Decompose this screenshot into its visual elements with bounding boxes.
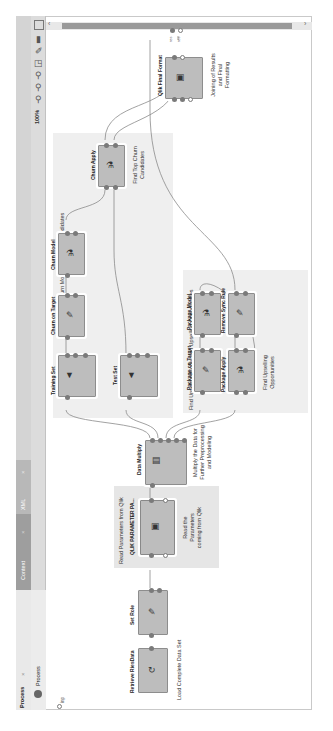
apply-model-icon: ⚗: [236, 365, 244, 375]
output-port[interactable]: [73, 353, 78, 358]
output-port[interactable]: [73, 231, 78, 236]
apply-model-icon: ⚗: [106, 160, 114, 170]
operator-set-role[interactable]: ✎: [138, 590, 168, 635]
input-port[interactable]: [234, 390, 239, 395]
output-port[interactable]: [65, 353, 70, 358]
filter-icon: ▼: [127, 370, 136, 380]
input-port[interactable]: [188, 97, 193, 102]
output-port-label: res: [176, 36, 181, 42]
output-port[interactable]: [113, 143, 118, 148]
input-port[interactable]: [172, 97, 177, 102]
output-port[interactable]: [234, 348, 239, 353]
output-port[interactable]: [150, 438, 155, 443]
operator-note: Multiply the Data for Further Preprocess…: [192, 425, 213, 480]
output-port[interactable]: [157, 588, 162, 593]
operator-label: QLIK PARAMETER PA...: [129, 498, 135, 555]
output-port[interactable]: [180, 55, 185, 60]
set-role-icon: ✎: [148, 607, 156, 617]
qlik-icon: ▣: [151, 521, 160, 531]
operator-qlik-parameter[interactable]: ▣: [140, 500, 175, 555]
output-port[interactable]: [163, 498, 168, 503]
operator-package-apply[interactable]: ⚗: [228, 350, 255, 392]
input-port[interactable]: [234, 333, 239, 338]
set-role-icon: ✎: [236, 308, 244, 318]
output-port-label: res: [168, 36, 173, 42]
operator-training-set[interactable]: ▼: [58, 355, 96, 397]
set-role-icon: ✎: [66, 310, 74, 320]
output-port[interactable]: [243, 348, 248, 353]
output-port[interactable]: [73, 293, 78, 298]
operator-remove-sync[interactable]: ✎: [228, 293, 255, 335]
operator-qlik-final-format[interactable]: ▣: [165, 57, 203, 99]
operator-test-set[interactable]: ▼: [120, 355, 158, 397]
output-port[interactable]: [209, 348, 214, 353]
input-port-label: inp: [60, 697, 65, 703]
input-port[interactable]: [243, 390, 248, 395]
output-port[interactable]: [172, 55, 177, 60]
operator-label: Qlik Final Format: [157, 55, 163, 96]
operator-label: Package Apply: [220, 357, 226, 392]
output-port[interactable]: [158, 438, 163, 443]
process-input-port[interactable]: [57, 704, 62, 709]
operator-label: Set Role: [129, 605, 135, 625]
operator-note: Find Upselling Opportunities: [262, 350, 276, 395]
operator-churn-on-target[interactable]: ✎: [58, 295, 85, 337]
operator-label: Churn Model: [50, 239, 56, 270]
operator-package-model[interactable]: ⚗: [194, 293, 221, 335]
input-port[interactable]: [65, 335, 70, 340]
output-port[interactable]: [127, 353, 132, 358]
operator-label: Training Set: [50, 366, 56, 395]
operator-label: Data Multiply: [136, 444, 142, 475]
output-port[interactable]: [166, 438, 171, 443]
operator-package-on-target[interactable]: ✎: [194, 350, 221, 392]
operator-multiply[interactable]: ▤: [145, 440, 187, 485]
output-port[interactable]: [174, 438, 179, 443]
operator-label: Package Model: [186, 294, 192, 330]
operator-label: Package on Target: [186, 346, 192, 390]
operator-label: Retrieve RiesData: [129, 650, 135, 693]
operator-label: Remove Sync Rule: [220, 288, 226, 333]
operator-churn-model[interactable]: ⚗: [58, 233, 85, 275]
input-port[interactable]: [127, 395, 132, 400]
output-port[interactable]: [149, 588, 154, 593]
output-port[interactable]: [83, 353, 88, 358]
output-port[interactable]: [145, 353, 150, 358]
operator-note: Find Top Churn Candidates: [132, 145, 146, 185]
input-port[interactable]: [113, 185, 118, 190]
output-port[interactable]: [135, 353, 140, 358]
operator-retrieve[interactable]: ↻: [138, 648, 168, 693]
output-port[interactable]: [104, 143, 109, 148]
output-port[interactable]: [234, 291, 239, 296]
output-port[interactable]: [149, 646, 154, 651]
output-port[interactable]: [209, 291, 214, 296]
process-output-port[interactable]: [170, 28, 175, 33]
input-port[interactable]: [200, 390, 205, 395]
input-port[interactable]: [200, 333, 205, 338]
output-port[interactable]: [149, 498, 154, 503]
input-port[interactable]: [65, 273, 70, 278]
input-port[interactable]: [180, 97, 185, 102]
output-port[interactable]: [243, 291, 248, 296]
operator-churn-apply[interactable]: ⚗: [98, 145, 125, 187]
input-port[interactable]: [150, 483, 155, 488]
output-port[interactable]: [200, 348, 205, 353]
input-port[interactable]: [65, 395, 70, 400]
output-port[interactable]: [65, 231, 70, 236]
filter-icon: ▼: [65, 370, 74, 380]
retrieve-icon: ↻: [148, 665, 156, 675]
input-port[interactable]: [104, 185, 109, 190]
multiply-icon: ▤: [152, 455, 161, 465]
operator-note: Joining of Results and Final Formatting: [210, 50, 231, 100]
input-port[interactable]: [163, 553, 168, 558]
qlik-icon: ▣: [176, 72, 185, 82]
model-icon: ⚗: [66, 248, 74, 258]
output-port[interactable]: [65, 293, 70, 298]
input-port[interactable]: [149, 633, 154, 638]
output-port[interactable]: [200, 291, 205, 296]
input-port[interactable]: [149, 553, 154, 558]
output-port[interactable]: [182, 438, 187, 443]
operator-label: Test Set: [112, 366, 118, 385]
process-output-port[interactable]: [178, 28, 183, 33]
set-role-icon: ✎: [202, 365, 210, 375]
model-icon: ⚗: [202, 308, 210, 318]
